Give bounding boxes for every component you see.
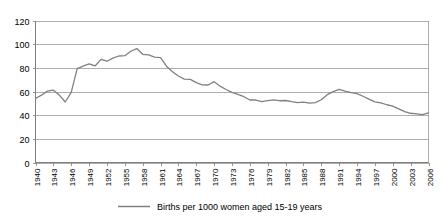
- x-tick-label: 1961: [158, 168, 167, 186]
- series-line-births-per-1000-women-15-19: [36, 49, 429, 115]
- x-tick-label: 1988: [318, 168, 327, 186]
- x-tick-label: 1985: [300, 168, 309, 186]
- x-tick-label: 1952: [104, 168, 113, 186]
- y-tick-label: 60: [19, 88, 29, 98]
- legend: Births per 1000 women aged 15-19 years: [118, 202, 323, 212]
- x-tick-label: 1967: [193, 168, 202, 186]
- x-tick-label: 1973: [229, 168, 238, 186]
- x-tick-label: 2003: [408, 168, 417, 186]
- x-tick-label: 1949: [86, 168, 95, 186]
- x-tick-label: 1958: [140, 168, 149, 186]
- x-tick-label: 1997: [372, 168, 381, 186]
- y-axis-tick-labels: 020406080100120: [14, 17, 29, 169]
- chart-canvas: 020406080100120 194019431946194919521955…: [0, 0, 444, 224]
- x-tick-label: 1955: [122, 168, 131, 186]
- x-tick-label: 1940: [33, 168, 42, 186]
- x-tick-label: 1979: [265, 168, 274, 186]
- x-tick-label: 1976: [247, 168, 256, 186]
- x-tick-label: 1946: [68, 168, 77, 186]
- x-tick-label: 1982: [283, 168, 292, 186]
- x-tick-label: 1970: [211, 168, 220, 186]
- x-tick-label: 1943: [50, 168, 59, 186]
- y-tick-label: 120: [14, 17, 29, 27]
- x-tick-label: 1991: [336, 168, 345, 186]
- line-chart: 020406080100120 194019431946194919521955…: [0, 0, 444, 224]
- y-tick-label: 20: [19, 135, 29, 145]
- legend-label: Births per 1000 women aged 15-19 years: [157, 202, 323, 212]
- y-tick-label: 100: [14, 40, 29, 50]
- y-tick-label: 40: [19, 111, 29, 121]
- x-tick-label: 1994: [354, 168, 363, 186]
- x-tick-label: 2006: [426, 168, 435, 186]
- y-tick-label: 0: [24, 159, 29, 169]
- x-tick-label: 2000: [390, 168, 399, 186]
- x-axis-tick-labels: 1940194319461949195219551958196119641967…: [33, 168, 435, 186]
- data-series-group: [36, 49, 429, 115]
- y-tick-label: 80: [19, 64, 29, 74]
- x-tick-label: 1964: [175, 168, 184, 186]
